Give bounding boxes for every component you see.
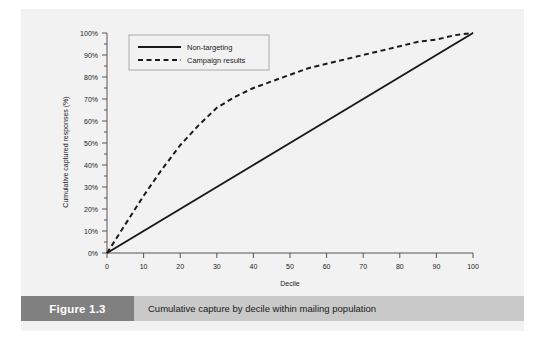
x-tick-label: 30 xyxy=(213,263,221,270)
figure-caption-text: Cumulative capture by decile within mail… xyxy=(148,296,376,321)
y-tick-label: 0% xyxy=(88,250,98,257)
y-axis-title: Cumulative captured responses (%) xyxy=(62,96,70,207)
chart-plot-region: Cumulative captured responses (%) 0%10%2… xyxy=(21,9,524,296)
figure-caption-bar: Figure 1.3 Cumulative capture by decile … xyxy=(21,296,524,321)
x-tick-label: 90 xyxy=(433,263,441,270)
legend: Non-targeting Campaign results xyxy=(129,35,269,70)
y-tick-label: 100% xyxy=(80,30,98,37)
y-tick-label: 90% xyxy=(84,52,98,59)
y-tick-label: 40% xyxy=(84,162,98,169)
x-tick-label: 40 xyxy=(250,263,258,270)
x-tick-label: 60 xyxy=(323,263,331,270)
legend-label-campaign-results: Campaign results xyxy=(187,56,246,65)
x-tick-label: 20 xyxy=(176,263,184,270)
x-tick-label: 0 xyxy=(105,263,109,270)
legend-label-non-targeting: Non-targeting xyxy=(187,43,232,52)
x-axis-ticks: 0102030405060708090100 xyxy=(105,253,479,270)
y-axis-ticks: 0%10%20%30%40%50%60%70%80%90%100% xyxy=(80,30,107,257)
y-tick-label: 10% xyxy=(84,228,98,235)
y-tick-label: 60% xyxy=(84,118,98,125)
y-tick-label: 80% xyxy=(84,74,98,81)
x-tick-label: 100 xyxy=(467,263,479,270)
y-axis-title-group: Cumulative captured responses (%) xyxy=(62,96,70,207)
x-tick-label: 10 xyxy=(140,263,148,270)
x-tick-label: 80 xyxy=(396,263,404,270)
figure-card: Cumulative captured responses (%) 0%10%2… xyxy=(21,9,524,331)
y-tick-label: 30% xyxy=(84,184,98,191)
x-tick-label: 50 xyxy=(286,263,294,270)
cumulative-capture-chart: Cumulative captured responses (%) 0%10%2… xyxy=(21,9,524,296)
x-axis-title: Decile xyxy=(280,280,300,287)
x-tick-label: 70 xyxy=(359,263,367,270)
y-tick-label: 50% xyxy=(84,140,98,147)
figure-number-label: Figure 1.3 xyxy=(21,296,134,321)
y-tick-label: 70% xyxy=(84,96,98,103)
y-tick-label: 20% xyxy=(84,206,98,213)
